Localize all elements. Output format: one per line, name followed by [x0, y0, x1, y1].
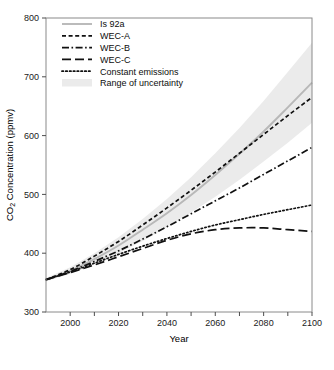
x-tick-label: 2000: [60, 318, 80, 328]
x-tick-label: 2020: [109, 318, 129, 328]
legend-label: WEC-A: [100, 31, 130, 41]
legend-item[interactable]: WEC-B: [62, 43, 130, 53]
y-tick-label: 300: [24, 307, 39, 317]
legend-label: Constant emissions: [100, 67, 179, 77]
y-axis-title: CO2 Concentration (ppmv): [4, 109, 16, 221]
x-axis-title: Year: [169, 333, 188, 344]
x-tick-label: 2100: [302, 318, 322, 328]
legend-label: Range of uncertainty: [100, 78, 184, 88]
legend-item[interactable]: Is 92a: [62, 19, 125, 29]
x-tick-label: 2060: [205, 318, 225, 328]
y-tick-label: 700: [24, 72, 39, 82]
y-tick-label: 500: [24, 190, 39, 200]
y-tick-label: 800: [24, 13, 39, 23]
legend-item[interactable]: Range of uncertainty: [62, 78, 184, 88]
legend-label: Is 92a: [100, 19, 125, 29]
legend-label: WEC-B: [100, 43, 130, 53]
legend-item[interactable]: WEC-C: [62, 55, 131, 65]
y-tick-label: 600: [24, 131, 39, 141]
co2-concentration-line-chart: 3004005006007008002000202020402060208021…: [0, 0, 334, 370]
svg-text:CO2 Concentration (ppmv): CO2 Concentration (ppmv): [4, 109, 16, 221]
legend-item[interactable]: WEC-A: [62, 31, 130, 41]
y-tick-label: 400: [24, 248, 39, 258]
x-tick-label: 2040: [157, 318, 177, 328]
legend-swatch-band: [62, 79, 92, 87]
legend-label: WEC-C: [100, 55, 131, 65]
chart-figure: 3004005006007008002000202020402060208021…: [0, 0, 334, 370]
x-tick-label: 2080: [254, 318, 274, 328]
legend-item[interactable]: Constant emissions: [62, 67, 179, 77]
chart-legend: Is 92aWEC-AWEC-BWEC-CConstant emissionsR…: [62, 19, 184, 88]
